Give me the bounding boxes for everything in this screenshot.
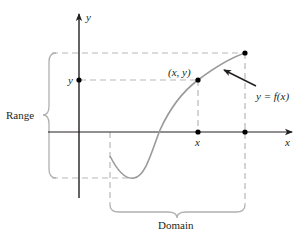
point-domain-end-on-axis bbox=[242, 129, 247, 134]
point-curve-end bbox=[242, 50, 247, 55]
x-tick-label: x bbox=[194, 136, 200, 148]
x-axis-label: x bbox=[284, 136, 290, 148]
y-tick-label: y bbox=[67, 74, 73, 86]
domain-range-diagram: y x y x (x, y) y = f(x) Range Domain bbox=[0, 0, 302, 236]
range-label: Range bbox=[6, 109, 34, 121]
y-axis-label: y bbox=[85, 11, 91, 23]
domain-brace bbox=[110, 205, 245, 218]
range-brace bbox=[43, 53, 56, 178]
point-x-on-axis bbox=[195, 129, 200, 134]
function-pointer-arrow bbox=[224, 70, 256, 86]
domain-label: Domain bbox=[158, 219, 194, 231]
point-y-on-axis bbox=[76, 77, 81, 82]
function-label: y = f(x) bbox=[255, 90, 289, 103]
dashed-guides bbox=[52, 53, 245, 205]
point-label: (x, y) bbox=[168, 66, 191, 79]
point-xy bbox=[195, 77, 200, 82]
